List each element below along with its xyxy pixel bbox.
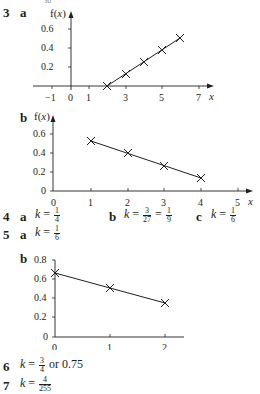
- x-axis-arrow-icon: [246, 189, 253, 194]
- svg-text:1: 1: [107, 342, 112, 350]
- chart-3b: f(x) 0 0.2 0.4 0.6 0 1 2 3 4 5 x: [0, 100, 260, 210]
- y-axis-label: f(x): [50, 7, 66, 20]
- answer-6: k = 34 or 0.75: [20, 357, 83, 374]
- y-tick-label: 0.6: [41, 23, 54, 34]
- fraction: 14: [54, 207, 60, 224]
- fraction: 34: [39, 357, 45, 374]
- part-label-4c: c: [196, 209, 202, 225]
- answer-4a: k = 14: [35, 207, 61, 224]
- answer-4b: k = 327 = 19: [124, 207, 173, 224]
- svg-text:0.2: 0.2: [33, 166, 46, 177]
- fraction: 16: [230, 207, 236, 224]
- question-number-6: 6: [3, 359, 10, 375]
- x-axis-arrow-icon: [207, 84, 214, 89]
- svg-text:0: 0: [43, 331, 48, 342]
- svg-text:4: 4: [198, 197, 203, 208]
- question-number-4: 4: [3, 209, 10, 225]
- answer-4c: k = 16: [211, 207, 237, 224]
- chart-5b: 0 0.2 0.4 0.6 0.8 0 1 2: [0, 240, 260, 350]
- part-label-4a: a: [20, 209, 27, 225]
- svg-text:0.6: 0.6: [34, 273, 47, 284]
- data-markers: [103, 34, 184, 90]
- question-number-7: 7: [3, 378, 10, 394]
- svg-text:0.8: 0.8: [34, 254, 47, 265]
- svg-text:0: 0: [41, 185, 46, 196]
- svg-text:0: 0: [52, 342, 57, 350]
- svg-text:0.6: 0.6: [33, 128, 46, 139]
- svg-text:2: 2: [162, 342, 167, 350]
- fraction: 4255: [39, 376, 51, 393]
- svg-text:0.2: 0.2: [34, 311, 47, 322]
- y-tick-label: 0.4: [41, 42, 54, 53]
- svg-text:0.4: 0.4: [34, 292, 47, 303]
- svg-text:1: 1: [88, 197, 93, 208]
- svg-text:x: x: [247, 195, 253, 207]
- svg-text:0.4: 0.4: [33, 147, 46, 158]
- data-markers: [51, 269, 169, 307]
- answer-7: k = 4255: [20, 376, 52, 393]
- y-axis-arrow-icon: [51, 115, 56, 122]
- part-label-4b: b: [109, 209, 116, 225]
- fraction: 19: [166, 207, 172, 224]
- y-axis-arrow-icon: [69, 11, 74, 18]
- y-axis-label: f(x): [34, 110, 50, 123]
- chart-3a: f(x) 0.2 0.4 0.6 −1 0 1 3 5 7 x: [0, 0, 260, 105]
- y-tick-label: 0.2: [41, 61, 54, 72]
- fraction: 327: [143, 207, 151, 224]
